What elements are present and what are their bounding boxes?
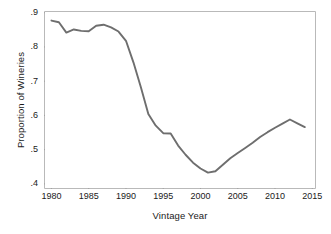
x-tick-label: 1980 (31, 192, 71, 201)
plot-area (44, 11, 316, 189)
x-tick-label: 1990 (106, 192, 146, 201)
plot-svg (44, 11, 316, 189)
axis-frame (45, 12, 316, 189)
data-line-series-0 (51, 21, 304, 173)
x-tick-label: 1995 (143, 192, 183, 201)
x-tick-label: 2000 (180, 192, 220, 201)
x-tick-label: 2015 (292, 192, 331, 201)
x-axis-title: Vintage Year (44, 210, 316, 221)
x-tick-label: 2005 (218, 192, 258, 201)
x-tick-label: 2010 (255, 192, 295, 201)
chart-figure: Proportion of Wineries .4.5.6.7.8.9 1980… (0, 0, 331, 234)
x-tick-label: 1985 (69, 192, 109, 201)
